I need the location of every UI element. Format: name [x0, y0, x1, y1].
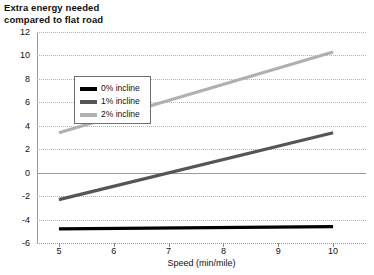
x-axis-title: Speed (min/mile)	[37, 258, 366, 268]
x-tick-label: 8	[221, 246, 226, 256]
energy-vs-speed-chart: Extra energy needed compared to flat roa…	[0, 0, 374, 275]
legend-swatch-icon	[80, 87, 97, 91]
x-tick-label: 5	[56, 246, 61, 256]
x-tick-label: 10	[328, 246, 338, 256]
y-tick-label: 0	[25, 168, 30, 177]
y-tick-label: -2	[22, 192, 30, 201]
series-lines	[37, 32, 366, 243]
plot-area: 0% incline1% incline2% incline	[37, 32, 366, 243]
x-tick-label: 6	[111, 246, 116, 256]
legend-item: 1% incline	[80, 95, 150, 108]
y-tick-label: 4	[25, 121, 30, 130]
x-tick-label: 7	[166, 246, 171, 256]
gridline	[37, 243, 366, 244]
legend-item-label: 0% incline	[101, 84, 140, 93]
chart-title: Extra energy needed compared to flat roa…	[4, 2, 224, 25]
y-tick-label: 12	[20, 28, 30, 37]
series-line	[59, 133, 333, 200]
y-tick-label: -4	[22, 215, 30, 224]
legend-item-label: 2% incline	[101, 110, 140, 119]
y-axis-tick-labels: 121086420-2-4-6	[0, 32, 33, 243]
y-tick-label: 10	[20, 51, 30, 60]
series-line	[59, 227, 333, 229]
x-tick-label: 9	[276, 246, 281, 256]
y-tick-label: 2	[25, 145, 30, 154]
legend-swatch-icon	[80, 113, 97, 117]
legend-swatch-icon	[80, 100, 97, 104]
y-tick-label: 8	[25, 74, 30, 83]
legend-item: 2% incline	[80, 108, 150, 121]
legend-item: 0% incline	[80, 82, 150, 95]
y-tick-label: -6	[22, 239, 30, 248]
legend-item-label: 1% incline	[101, 97, 140, 106]
y-tick-label: 6	[25, 98, 30, 107]
chart-legend: 0% incline1% incline2% incline	[74, 76, 151, 124]
